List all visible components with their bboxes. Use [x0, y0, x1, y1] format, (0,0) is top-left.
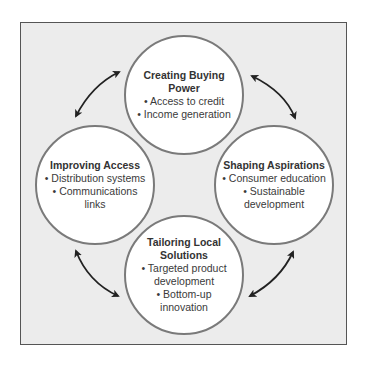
node-title: Tailoring Local Solutions	[136, 236, 232, 262]
node-title: Improving Access	[50, 159, 140, 172]
arrow-left-top	[76, 72, 119, 116]
arrow-bottom-left	[76, 251, 118, 296]
arrow-right-bottom	[250, 252, 293, 296]
node-item: • Distribution systems	[39, 172, 151, 185]
node-shaping-aspirations: Shaping Aspirations • Consumer education…	[214, 125, 334, 245]
node-title: Creating Buying Power	[136, 69, 232, 95]
arrow-top-right	[252, 76, 295, 118]
node-title: Shaping Aspirations	[223, 159, 325, 172]
node-item: • Sustainable development	[234, 185, 314, 211]
node-item: • Access to credit	[144, 95, 224, 108]
node-tailoring-local-solutions: Tailoring Local Solutions • Targeted pro…	[124, 215, 244, 335]
node-improving-access: Improving Access • Distribution systems …	[35, 125, 155, 245]
node-item: • Income generation	[137, 108, 231, 121]
node-item: • Communications links	[49, 185, 141, 211]
node-item: • Consumer education	[218, 172, 330, 185]
node-item: • Bottom-up innovation	[144, 288, 224, 314]
node-creating-buying-power: Creating Buying Power • Access to credit…	[124, 35, 244, 155]
node-item: • Targeted product development	[136, 262, 232, 288]
